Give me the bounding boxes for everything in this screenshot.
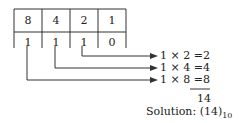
sum-value: 14: [197, 92, 211, 105]
weight-cell: 4: [42, 10, 70, 32]
weight-cell: 8: [14, 10, 42, 32]
product-value: 8: [203, 73, 210, 86]
weight-cell: 1: [98, 10, 126, 32]
solution-base: 10: [222, 111, 232, 120]
bit-cell: 1: [70, 32, 98, 54]
solution-value: (14): [200, 105, 223, 118]
solution: Solution: (14)10: [146, 105, 232, 120]
solution-label: Solution:: [146, 105, 196, 118]
bit-cell: 0: [98, 32, 126, 54]
bit-cell: 1: [14, 32, 42, 54]
product-expr: 1 × 8 =: [160, 73, 203, 86]
bit-cell: 1: [42, 32, 70, 54]
weight-cell: 2: [70, 10, 98, 32]
